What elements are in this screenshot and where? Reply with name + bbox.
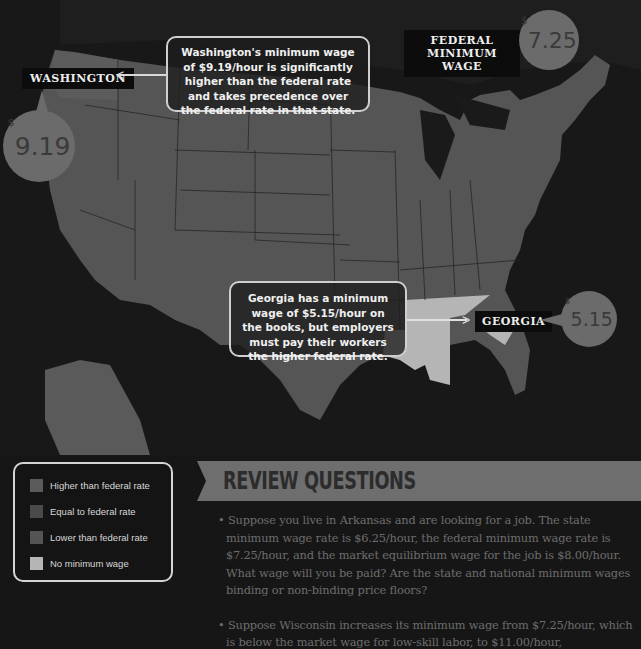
washington-pointer <box>36 90 48 112</box>
currency-symbol: $ <box>8 116 15 129</box>
georgia-wage-amount: 5.15 <box>571 308 613 330</box>
alaska-shape <box>45 360 150 455</box>
washington-callout: Washington's minimum wage of $9.19/hour … <box>166 36 370 112</box>
legend-swatch <box>30 505 43 518</box>
washington-arrow <box>118 74 166 76</box>
georgia-callout: Georgia has a minimum wage of $5.15/hour… <box>229 281 407 357</box>
federal-wage-bubble: $7.25 <box>519 10 579 70</box>
washington-wage-bubble: $9.19 <box>3 110 75 182</box>
georgia-wage-bubble: $5.15 <box>561 291 617 347</box>
legend-swatch <box>30 557 43 570</box>
georgia-arrowhead-icon: > <box>462 313 470 327</box>
federal-label-line2: MINIMUM WAGE <box>412 47 512 73</box>
review-question: • Suppose Wisconsin increases its minimu… <box>218 617 638 649</box>
legend-item-equal: Equal to federal rate <box>30 505 136 518</box>
us-minimum-wage-map: FEDERAL MINIMUM WAGE $7.25 WASHINGTON < … <box>0 0 641 455</box>
legend-label: Lower than federal rate <box>50 532 148 543</box>
legend-item-none: No minimum wage <box>30 557 129 570</box>
washington-arrowhead-icon: < <box>116 68 124 82</box>
review-question: • Suppose you live in Arkansas and are l… <box>218 512 638 600</box>
legend-item-lower: Lower than federal rate <box>30 531 148 544</box>
legend-label: Higher than federal rate <box>50 480 150 491</box>
legend-label: Equal to federal rate <box>50 506 136 517</box>
question-text: Suppose you live in Arkansas and are loo… <box>226 513 630 597</box>
review-questions-title: REVIEW QUESTIONS <box>223 467 416 495</box>
question-text: Suppose Wisconsin increases its minimum … <box>226 618 632 649</box>
federal-min-wage-label: FEDERAL MINIMUM WAGE <box>404 30 520 77</box>
georgia-pointer <box>540 314 562 326</box>
review-questions-banner: REVIEW QUESTIONS <box>197 461 641 501</box>
legend-swatch <box>30 479 43 492</box>
georgia-arrow <box>407 319 467 321</box>
currency-symbol: $ <box>521 15 527 26</box>
federal-label-line1: FEDERAL <box>412 34 512 47</box>
currency-symbol: $ <box>565 296 570 306</box>
legend-label: No minimum wage <box>50 558 129 569</box>
review-questions-list: • Suppose you live in Arkansas and are l… <box>218 512 638 649</box>
washington-wage-amount: 9.19 <box>15 132 71 161</box>
map-legend: Higher than federal rate Equal to federa… <box>13 462 173 582</box>
federal-wage-amount: 7.25 <box>528 28 577 53</box>
legend-swatch <box>30 531 43 544</box>
legend-item-higher: Higher than federal rate <box>30 479 150 492</box>
